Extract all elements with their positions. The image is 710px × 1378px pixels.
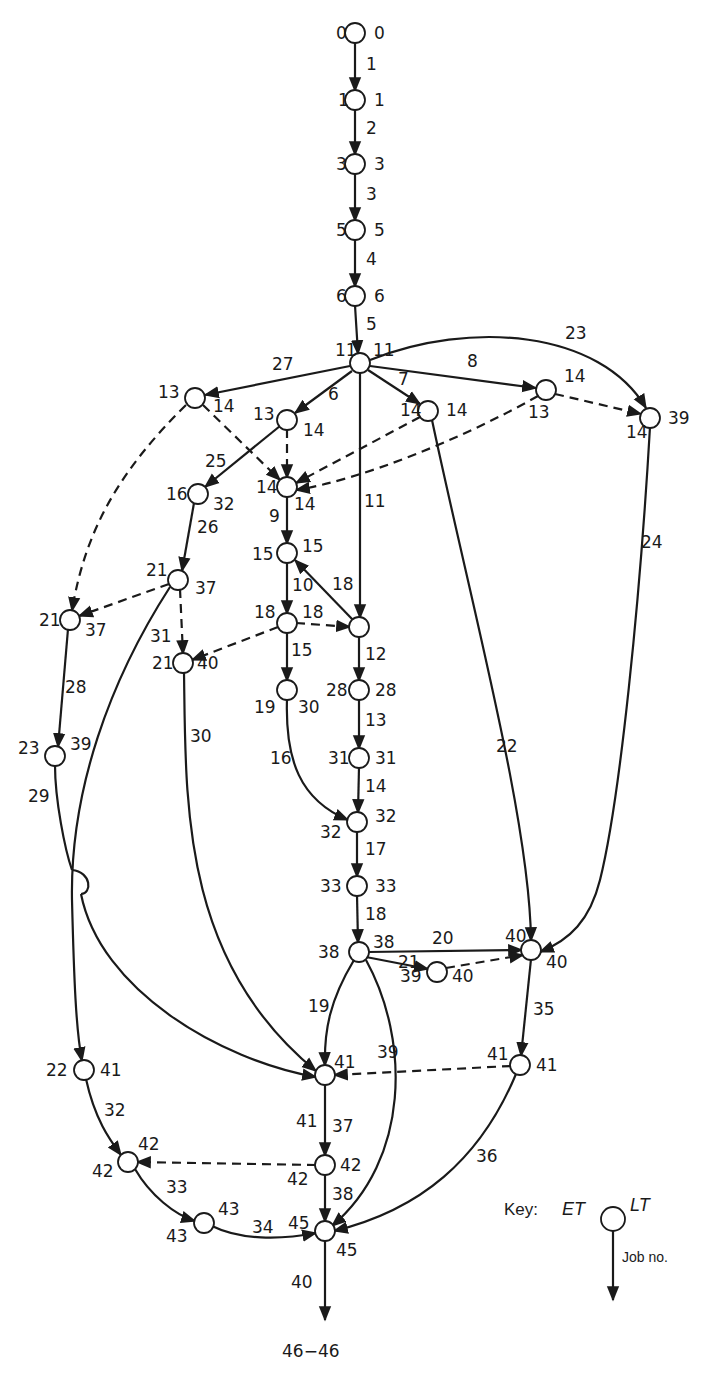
- earliest-time-label: 42: [287, 1169, 309, 1189]
- earliest-time-label: 16: [166, 484, 188, 504]
- earliest-time-label: 18: [0, 0, 22, 4]
- dummy-activity-arrow: [334, 1066, 511, 1075]
- job-number-label: 19: [308, 996, 330, 1016]
- job-number-label: 24: [641, 532, 663, 552]
- job-number-label: 36: [476, 1146, 498, 1166]
- event-node: [347, 812, 367, 832]
- job-arrow-7: [368, 370, 420, 404]
- event-node: [277, 543, 297, 563]
- job-arrow-29: [55, 765, 316, 1077]
- earliest-time-label: 18: [254, 602, 276, 622]
- job-number-label: 17: [365, 839, 387, 859]
- earliest-time-label: 19: [254, 697, 276, 717]
- latest-time-label: 14: [213, 396, 235, 416]
- latest-time-label: 40: [546, 952, 568, 972]
- job-number-label: 6: [328, 384, 339, 404]
- key-lt-label: LT: [630, 1195, 652, 1215]
- job-arrow-14: [358, 767, 359, 813]
- legend-key: Key: ET LT Job no.: [504, 1195, 668, 1300]
- event-node: [510, 1055, 530, 1075]
- event-node: [194, 1213, 214, 1233]
- job-number-label: 35: [533, 999, 555, 1019]
- earliest-time-label: 41: [487, 1044, 509, 1064]
- event-node: [349, 748, 369, 768]
- dummy-activity-arrow: [180, 589, 183, 654]
- dummy-activity-arrow: [137, 1162, 316, 1165]
- latest-time-label: 37: [85, 620, 107, 640]
- earliest-time-label: 1: [338, 90, 349, 110]
- earliest-time-label: 15: [252, 544, 274, 564]
- job-number-label: 13: [365, 710, 387, 730]
- latest-time-label: 41: [536, 1055, 558, 1075]
- latest-time-label: 18: [302, 602, 324, 622]
- event-node: [347, 876, 367, 896]
- event-node: [536, 380, 556, 400]
- labels-layer: 1234527678231125269101815121314161718282…: [0, 0, 690, 1292]
- job-number-label: 7: [398, 369, 409, 389]
- job-number-label: 34: [252, 1217, 274, 1237]
- key-job-label: Job no.: [622, 1249, 668, 1265]
- job-number-label: 14: [365, 776, 387, 796]
- job-number-label: 32: [104, 1100, 126, 1120]
- job-number-label: 23: [565, 323, 587, 343]
- latest-time-label: 14: [446, 400, 468, 420]
- job-number-label: 22: [496, 736, 518, 756]
- earliest-time-label: 33: [320, 876, 342, 896]
- job-number-label: 10: [292, 575, 314, 595]
- earliest-time-label: 45: [288, 1213, 310, 1233]
- event-node: [188, 484, 208, 504]
- earliest-time-label: 13: [528, 402, 550, 422]
- earliest-time-label: 22: [46, 1060, 68, 1080]
- latest-time-label: 41: [100, 1060, 122, 1080]
- latest-time-label: 0: [374, 23, 385, 43]
- job-number-label: 20: [432, 928, 454, 948]
- job-arrow-35: [521, 959, 531, 1056]
- earliest-time-label: 14: [256, 477, 278, 497]
- earliest-time-label: 21: [39, 610, 61, 630]
- job-number-label: 9: [269, 506, 280, 526]
- dummy-activity-arrow: [555, 394, 641, 414]
- earliest-time-label: 11: [335, 340, 357, 360]
- latest-time-label: 3: [374, 154, 385, 174]
- event-node: [277, 680, 297, 700]
- crossover-hop: [72, 870, 88, 894]
- latest-time-label: 39: [70, 734, 92, 754]
- earliest-time-label: 13: [253, 404, 275, 424]
- job-number-label: 2: [366, 118, 377, 138]
- key-title: Key:: [504, 1200, 538, 1219]
- latest-time-label: 1: [374, 90, 385, 110]
- job-number-label: 30: [190, 726, 212, 746]
- job-number-label: 16: [270, 748, 292, 768]
- latest-time-label: 14: [303, 420, 325, 440]
- job-number-label: 40: [291, 1272, 313, 1292]
- earliest-time-label: 5: [336, 220, 347, 240]
- job-arrow-8: [370, 366, 536, 388]
- job-number-label: 31: [150, 626, 172, 646]
- job-number-label: 5: [366, 314, 377, 334]
- latest-time-label: 30: [298, 697, 320, 717]
- key-node-icon: [601, 1207, 625, 1231]
- earliest-time-label: 31: [328, 748, 350, 768]
- job-arrow-22: [432, 420, 531, 941]
- event-node: [349, 680, 369, 700]
- latest-time-label: 42: [138, 1134, 160, 1154]
- dummy-activity-arrow: [296, 623, 350, 627]
- job-number-label: 33: [166, 1177, 188, 1197]
- latest-time-label: 37: [195, 578, 217, 598]
- latest-time-label: 11: [373, 340, 395, 360]
- job-number-label: 26: [197, 517, 219, 537]
- job-number-label: 27: [272, 354, 294, 374]
- latest-time-label: 5: [374, 220, 385, 240]
- earliest-time-label: 3: [336, 154, 347, 174]
- job-number-label: 38: [332, 1184, 354, 1204]
- event-node: [315, 1155, 335, 1175]
- job-number-label: 4: [366, 249, 377, 269]
- latest-time-label: 39: [668, 408, 690, 428]
- event-node: [349, 617, 369, 637]
- job-number-label: 39: [377, 1042, 399, 1062]
- event-node: [315, 1221, 335, 1241]
- latest-time-label: 32: [213, 494, 235, 514]
- job-number-label: 29: [28, 786, 50, 806]
- event-node: [345, 286, 365, 306]
- end-node-label: 46−46: [282, 1341, 340, 1361]
